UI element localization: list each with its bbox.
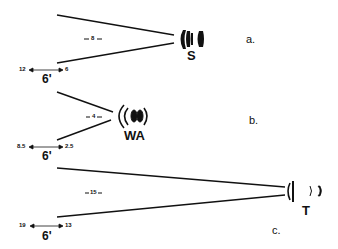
panel-b-label: b. xyxy=(249,114,258,126)
panel-c-lens-type: T xyxy=(302,203,310,218)
panel-b-range-near: 2.5 xyxy=(65,143,73,149)
panel-c-label: c. xyxy=(272,224,281,236)
panel-c-range-near: 13 xyxy=(65,222,72,228)
panel-a-range-far: 12 xyxy=(19,66,26,72)
panel-c-distance: 6' xyxy=(42,229,52,243)
panel-a-spread-value: 8 xyxy=(91,35,94,41)
panel-b-field-of-view xyxy=(57,92,113,140)
panel-b-spread-value: 4 xyxy=(92,113,95,119)
panel-c-range-far: 19 xyxy=(19,222,26,228)
panel-b-distance: 6' xyxy=(42,149,52,163)
panel-a-distance: 6' xyxy=(42,72,52,86)
standard-lens-icon xyxy=(181,30,205,49)
panel-c-range-arrow xyxy=(30,224,63,228)
panel-b-lens-type: WA xyxy=(124,128,145,143)
panel-a-lens-type: S xyxy=(187,48,196,63)
panel-a-label: a. xyxy=(246,33,255,45)
telephoto-lens-icon xyxy=(288,181,322,202)
panel-a-field-of-view xyxy=(57,15,174,63)
wide-angle-lens-icon xyxy=(119,105,147,128)
panel-b-range-far: 8.5 xyxy=(17,143,25,149)
panel-a-range-near: 6 xyxy=(65,66,68,72)
panel-c-spread-value: 15 xyxy=(90,189,97,195)
lens-diagram xyxy=(0,0,338,249)
